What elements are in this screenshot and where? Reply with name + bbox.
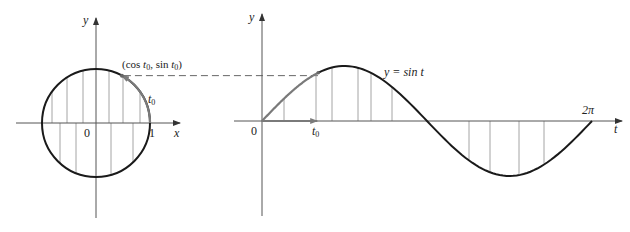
arc-t0 [122,76,150,123]
sine-curve-label: y = sin t [383,65,424,79]
sine-origin-label: 0 [251,124,257,138]
curve-label-prefix: y = sin [383,65,420,79]
unit-circle-panel: y x 0 1 (cos t0, sin t0) t0 [16,13,182,218]
circle-origin-label: 0 [84,126,90,140]
point-label-prefix: (cos [122,58,143,71]
sine-graph-panel: y t 0 t0 2π y = sin t [234,10,622,216]
point-label-suffix: ) [178,58,182,71]
circle-one-label: 1 [149,126,155,140]
arc-label-sub: 0 [151,98,155,107]
circle-y-label: y [82,13,89,27]
point-cos-sin-t0 [120,74,124,78]
sine-curve-segment-to-t0 [262,73,318,121]
curve-label-t: t [420,65,424,79]
diagram-canvas: y x 0 1 (cos t0, sin t0) t0 [0,0,630,232]
t0-label-sub: 0 [315,130,319,139]
sine-t0-label: t0 [312,124,319,139]
two-pi-label: 2π [582,103,595,117]
arc-t0-label: t0 [148,92,155,107]
point-label-mid: , sin [150,58,171,70]
sine-t-label: t [614,122,618,136]
figure: y x 0 1 (cos t0, sin t0) t0 [0,0,630,232]
sine-y-label: y [248,10,255,24]
point-t0-on-sine [316,71,320,75]
circle-x-label: x [173,126,180,140]
point-coordinates-label: (cos t0, sin t0) [122,58,182,72]
